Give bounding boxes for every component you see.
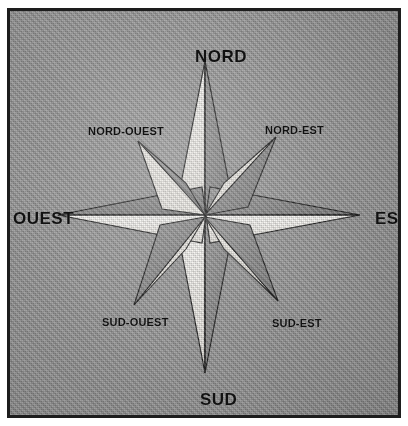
label-nord-est: NORD-EST [265, 124, 324, 136]
label-sud: SUD [200, 390, 237, 410]
label-ouest: OUEST [13, 209, 74, 229]
label-est: EST [375, 209, 401, 229]
label-nord: NORD [195, 47, 247, 67]
label-nord-ouest: NORD-OUEST [88, 125, 164, 137]
compass-rose-figure: NORD NORD-EST EST SUD-EST SUD SUD-OUEST … [0, 0, 408, 426]
label-sud-est: SUD-EST [272, 317, 322, 329]
label-sud-ouest: SUD-OUEST [102, 316, 169, 328]
illustration-plate: NORD NORD-EST EST SUD-EST SUD SUD-OUEST … [7, 8, 401, 418]
